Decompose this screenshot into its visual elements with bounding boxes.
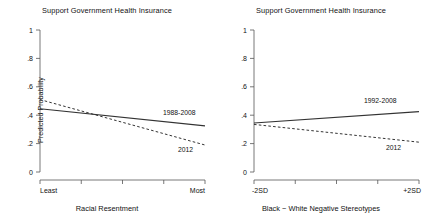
x-axis-label-right: Black − White Negative Stereotypes (214, 204, 428, 213)
y-tick-label-04: .4 (27, 112, 33, 119)
y-tick-label-06: .6 (27, 83, 33, 90)
x-ticks-right (254, 180, 419, 184)
x-axis-label-left: Racial Resentment (0, 204, 214, 213)
series-line-dashed-right (254, 124, 419, 142)
chart-panel-left: Support Government Health Insurance Pred… (0, 0, 214, 219)
x-ticks-left (40, 180, 205, 184)
y-tick-label-0: 0 (243, 169, 247, 176)
y-tick-label-1: 1 (29, 27, 33, 34)
y-tick-label-04: .4 (241, 112, 247, 119)
x-tick-label-minus-2sd: -2SD (252, 187, 268, 194)
y-tick-label-0: 0 (29, 169, 33, 176)
chart-panel-right: Support Government Health Insurance 1 .8… (214, 0, 428, 219)
series-label-solid-left: 1988-2008 (163, 109, 196, 116)
series-label-solid-right: 1992-2008 (364, 97, 397, 104)
y-tick-label-1: 1 (243, 27, 247, 34)
series-label-dashed-left: 2012 (178, 146, 193, 153)
figure-two-panel-chart: Support Government Health Insurance Pred… (0, 0, 428, 219)
x-tick-label-least: Least (40, 187, 57, 194)
y-tick-label-02: .2 (241, 140, 247, 147)
plot-area-left: 1 .8 .6 .4 .2 0 Least Most 1988-2008 201… (0, 0, 214, 219)
y-ticks-left (36, 30, 40, 172)
series-label-dashed-right: 2012 (386, 144, 401, 151)
series-line-solid-right (254, 112, 419, 123)
x-tick-label-plus-2sd: +2SD (403, 187, 421, 194)
series-line-dashed-left (40, 100, 205, 145)
y-tick-label-06: .6 (241, 83, 247, 90)
y-tick-label-02: .2 (27, 140, 33, 147)
y-ticks-right (250, 30, 254, 172)
y-tick-label-08: .8 (27, 55, 33, 62)
plot-area-right: 1 .8 .6 .4 .2 0 -2SD +2SD 1992-2008 2012 (214, 0, 428, 219)
y-tick-label-08: .8 (241, 55, 247, 62)
x-tick-label-most: Most (190, 187, 205, 194)
